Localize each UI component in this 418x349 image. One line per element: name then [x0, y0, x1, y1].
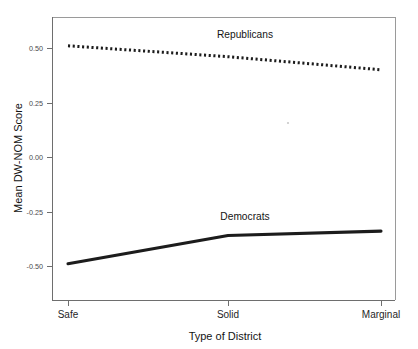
chart-figure: 0.50 0.25 0.00 -0.25 -0.50 Safe Solid Ma… — [0, 0, 418, 349]
y-tick-label-0: 0.50 — [29, 44, 43, 53]
x-tick-label-solid: Solid — [217, 309, 239, 320]
x-axis-title: Type of District — [189, 330, 262, 342]
x-tick-label-marginal: Marginal — [362, 309, 400, 320]
series-line-republicans — [68, 46, 381, 70]
scan-artifact-speck — [287, 122, 289, 124]
series-label-democrats: Democrats — [220, 211, 269, 222]
series-label-republicans: Republicans — [217, 29, 273, 40]
y-tick-label-3: -0.25 — [27, 208, 43, 217]
y-axis-title: Mean DW-NOM Score — [12, 103, 24, 213]
x-tick-label-safe: Safe — [58, 309, 79, 320]
y-tick-label-4: -0.50 — [27, 262, 43, 271]
series-line-democrats — [68, 231, 381, 264]
y-tick-label-1: 0.25 — [29, 99, 43, 108]
line-chart: 0.50 0.25 0.00 -0.25 -0.50 Safe Solid Ma… — [0, 0, 418, 349]
y-tick-label-2: 0.00 — [29, 153, 43, 162]
